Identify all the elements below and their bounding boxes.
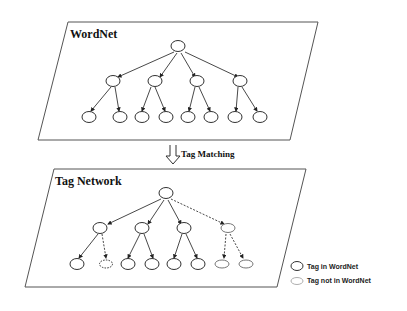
wordnet-panel: WordNet [38, 22, 318, 140]
tag-network-nodes [70, 188, 253, 270]
legend: Tag in WordNet Tag not in WordNet [291, 262, 372, 286]
node-root [171, 41, 185, 52]
down-arrow-icon [166, 145, 180, 164]
tag-matching-arrow: Tag Matching [166, 145, 235, 164]
node-root [159, 188, 173, 199]
arrow-label: Tag Matching [181, 149, 235, 159]
diagram-canvas: WordNet [0, 0, 407, 311]
wordnet-nodes [82, 41, 267, 123]
wordnet-title: WordNet [70, 27, 117, 41]
legend-faint-node-icon [291, 278, 303, 285]
tag-network-panel: Tag Network [25, 169, 306, 287]
legend-label-in-wordnet: Tag in WordNet [307, 263, 359, 271]
legend-solid-node-icon [291, 262, 303, 271]
tag-network-title: Tag Network [55, 174, 122, 188]
legend-label-not-in-wordnet: Tag not in WordNet [307, 277, 372, 285]
